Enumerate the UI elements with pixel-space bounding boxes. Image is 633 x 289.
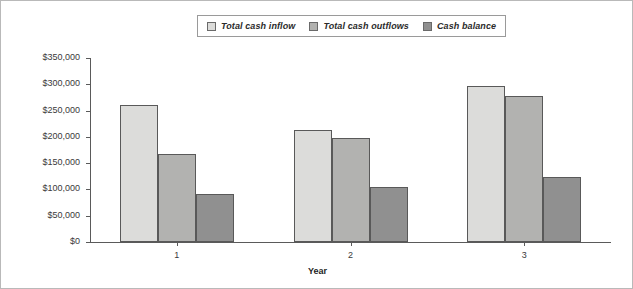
y-axis-tick-label: $50,000 — [47, 210, 80, 220]
bar — [370, 187, 408, 242]
legend-swatch-icon — [207, 22, 216, 31]
y-axis-tick: $100,000 — [86, 189, 90, 190]
y-axis-tick-label: $100,000 — [42, 183, 80, 193]
y-axis-tick: $300,000 — [86, 84, 90, 85]
legend-swatch-icon — [309, 22, 318, 31]
legend-swatch-icon — [423, 22, 432, 31]
legend-label: Total cash outflows — [323, 21, 409, 31]
y-axis-tick-label: $250,000 — [42, 105, 80, 115]
legend-entry[interactable]: Cash balance — [423, 21, 496, 31]
y-axis-tick: $200,000 — [86, 137, 90, 138]
x-axis-tick-label: 2 — [348, 250, 353, 260]
bar — [120, 105, 158, 242]
legend-label: Total cash inflow — [221, 21, 295, 31]
y-axis-tick-label: $0 — [70, 236, 80, 246]
legend-entry[interactable]: Total cash outflows — [309, 21, 409, 31]
y-axis-tick-label: $200,000 — [42, 131, 80, 141]
y-axis-tick: $0 — [86, 242, 90, 243]
legend-label: Cash balance — [437, 21, 496, 31]
bar — [196, 194, 234, 242]
y-axis-tick-label: $300,000 — [42, 78, 80, 88]
y-axis-tick: $50,000 — [86, 216, 90, 217]
plot-area: $0$50,000$100,000$150,000$200,000$250,00… — [90, 58, 611, 242]
chart-container: Total cash inflowTotal cash outflowsCash… — [0, 0, 633, 289]
chart-legend: Total cash inflowTotal cash outflowsCash… — [197, 15, 506, 37]
bar — [158, 154, 196, 242]
y-axis-tick: $250,000 — [86, 111, 90, 112]
x-axis-tick — [177, 242, 178, 246]
bar — [505, 96, 543, 242]
y-axis-line — [90, 58, 91, 243]
y-axis-tick-label: $350,000 — [42, 52, 80, 62]
y-axis-tick: $150,000 — [86, 163, 90, 164]
x-axis-tick-label: 3 — [522, 250, 527, 260]
bar — [294, 130, 332, 242]
legend-entry[interactable]: Total cash inflow — [207, 21, 295, 31]
bar — [467, 86, 505, 242]
bar — [543, 177, 581, 242]
x-axis-tick — [351, 242, 352, 246]
y-axis-tick: $350,000 — [86, 58, 90, 59]
bar — [332, 138, 370, 242]
x-axis-tick — [524, 242, 525, 246]
x-axis-tick-label: 1 — [174, 250, 179, 260]
x-axis-title: Year — [1, 266, 633, 276]
y-axis-tick-label: $150,000 — [42, 157, 80, 167]
